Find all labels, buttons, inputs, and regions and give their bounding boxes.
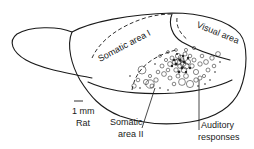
species-label: Rat [76, 118, 91, 128]
label-auditory-line2: responses [198, 132, 240, 142]
lower-boundary [88, 80, 232, 94]
label-auditory-line1: Auditory [201, 120, 235, 130]
label-somatic-area-2-line2: area II [118, 129, 144, 139]
label-visual-area: Visual area [195, 20, 240, 46]
rat-brain-cortex-diagram: Somatic area I Visual area 1 mm Rat Soma… [0, 0, 254, 149]
label-somatic-area-2-line1: Somatic [110, 117, 143, 127]
olfactory-bulb-outline [12, 28, 92, 78]
label-somatic-area-1: Somatic area I [96, 28, 152, 64]
scale-bar-label: 1 mm [72, 106, 95, 116]
visual-area-dashed-boundary [177, 18, 188, 40]
